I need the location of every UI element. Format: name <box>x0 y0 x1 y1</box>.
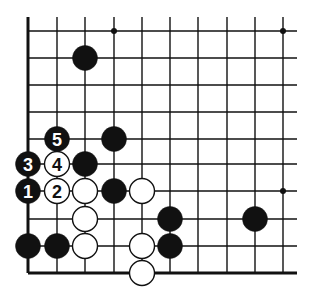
black-stone: 5 <box>45 127 70 152</box>
black-stone <box>158 234 183 259</box>
white-stone <box>73 207 98 232</box>
move-number: 1 <box>23 182 33 202</box>
white-stone <box>73 234 98 259</box>
move-number: 5 <box>52 130 62 150</box>
white-stone <box>130 179 155 204</box>
black-stone <box>16 234 41 259</box>
white-stone <box>73 179 98 204</box>
move-number: 4 <box>52 155 62 175</box>
black-stone <box>102 179 127 204</box>
move-number: 3 <box>23 155 33 175</box>
black-stone <box>102 127 127 152</box>
go-board: 53412 <box>0 0 314 303</box>
white-stone: 4 <box>45 152 70 177</box>
black-stone: 1 <box>16 179 41 204</box>
white-stone <box>130 234 155 259</box>
black-stone <box>158 207 183 232</box>
white-stone: 2 <box>45 179 70 204</box>
black-stone <box>45 234 70 259</box>
star-point-icon <box>280 188 286 194</box>
black-stone <box>73 46 98 71</box>
white-stone <box>130 261 155 286</box>
star-point-icon <box>111 28 117 34</box>
star-point-icon <box>280 28 286 34</box>
black-stone: 3 <box>16 152 41 177</box>
move-number: 2 <box>52 182 62 202</box>
board-grid <box>28 17 297 273</box>
black-stone <box>73 152 98 177</box>
black-stone <box>243 207 268 232</box>
